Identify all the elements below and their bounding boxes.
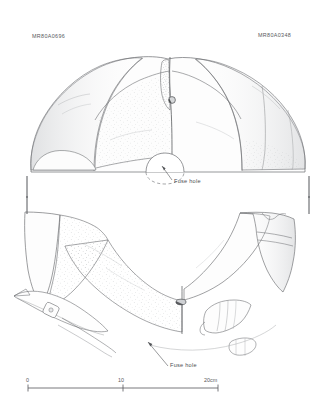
scale-bar-label-start: 0 — [26, 377, 29, 383]
scale-bar — [28, 385, 218, 392]
scale-bar-label-mid: 10 — [118, 377, 124, 383]
illustration-canvas — [0, 0, 336, 404]
scale-bar-label-end: 20cm — [204, 377, 217, 383]
figure-plate: MR80A0696 MR80A0348 Fuse hole Fuse hole … — [0, 0, 336, 404]
catalogue-number-left: MR80A0696 — [32, 33, 65, 39]
fuse-hole-label-lower: Fuse hole — [170, 362, 197, 368]
fuse-hole-label-upper: Fuse hole — [174, 178, 201, 184]
detail-right-small-block — [229, 338, 256, 355]
lower-profile-view — [14, 196, 309, 366]
catalogue-number-right: MR80A0348 — [258, 32, 291, 38]
upper-elevation-view — [27, 57, 309, 198]
detail-left-strap-boss-hole — [49, 308, 53, 312]
fuse-hole-lower-arrowhead — [148, 342, 152, 347]
